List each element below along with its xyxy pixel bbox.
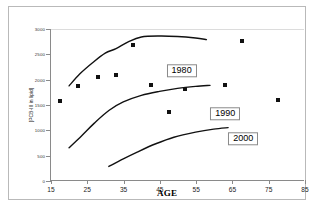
curve-1990 — [69, 85, 210, 147]
x-tick — [51, 180, 52, 184]
y-tick-label: 1000 — [35, 128, 45, 133]
plot-area: 050010001500200025003000 152535455565758… — [50, 29, 304, 181]
y-tick-label: 3000 — [35, 27, 45, 32]
series-label-2000: 2000 — [228, 132, 258, 145]
figure-container: [PCB-III in lipid] 050010001500200025003… — [8, 6, 306, 200]
y-tick-label: 2500 — [35, 52, 45, 57]
x-axis-title: AGE — [157, 188, 177, 198]
curve-1980 — [69, 36, 206, 86]
x-tick-label: 55 — [192, 186, 199, 193]
data-point-marker — [276, 98, 280, 102]
x-tick-label: 65 — [229, 186, 236, 193]
data-point-marker — [131, 43, 135, 47]
series-label-1990: 1990 — [210, 107, 240, 120]
x-tick — [124, 180, 125, 184]
data-point-marker — [58, 99, 62, 103]
x-tick — [196, 180, 197, 184]
y-axis-title: [PCB-III in lipid] — [28, 88, 34, 122]
data-point-marker — [183, 87, 187, 91]
y-tick-label: 500 — [37, 153, 45, 158]
y-tick-label: 2000 — [35, 77, 45, 82]
data-point-marker — [167, 110, 171, 114]
x-tick-label: 85 — [301, 186, 308, 193]
x-tick-label: 75 — [265, 186, 272, 193]
x-tick — [87, 180, 88, 184]
x-tick — [269, 180, 270, 184]
x-tick — [305, 180, 306, 184]
data-point-marker — [76, 84, 80, 88]
data-point-marker — [149, 83, 153, 87]
data-point-marker — [96, 75, 100, 79]
data-point-marker — [223, 83, 227, 87]
curve-2000 — [109, 128, 228, 167]
x-tick-label: 25 — [84, 186, 91, 193]
x-tick-label: 15 — [47, 186, 54, 193]
data-point-marker — [240, 39, 244, 43]
x-tick — [160, 180, 161, 184]
trend-curves — [51, 29, 304, 180]
x-tick — [232, 180, 233, 184]
x-tick-label: 35 — [120, 186, 127, 193]
y-tick-label: 1500 — [35, 103, 45, 108]
series-label-1980: 1980 — [167, 64, 197, 77]
y-tick-label: 0 — [42, 179, 45, 184]
data-point-marker — [114, 73, 118, 77]
